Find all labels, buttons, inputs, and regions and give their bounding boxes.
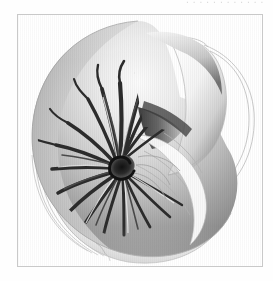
nautilus-shell-illustration [18,15,263,267]
plate-frame [17,14,263,267]
figure-root: ............ [0,0,273,281]
plate-inner [18,15,262,266]
caption-remnant-text: ............ [186,0,272,6]
